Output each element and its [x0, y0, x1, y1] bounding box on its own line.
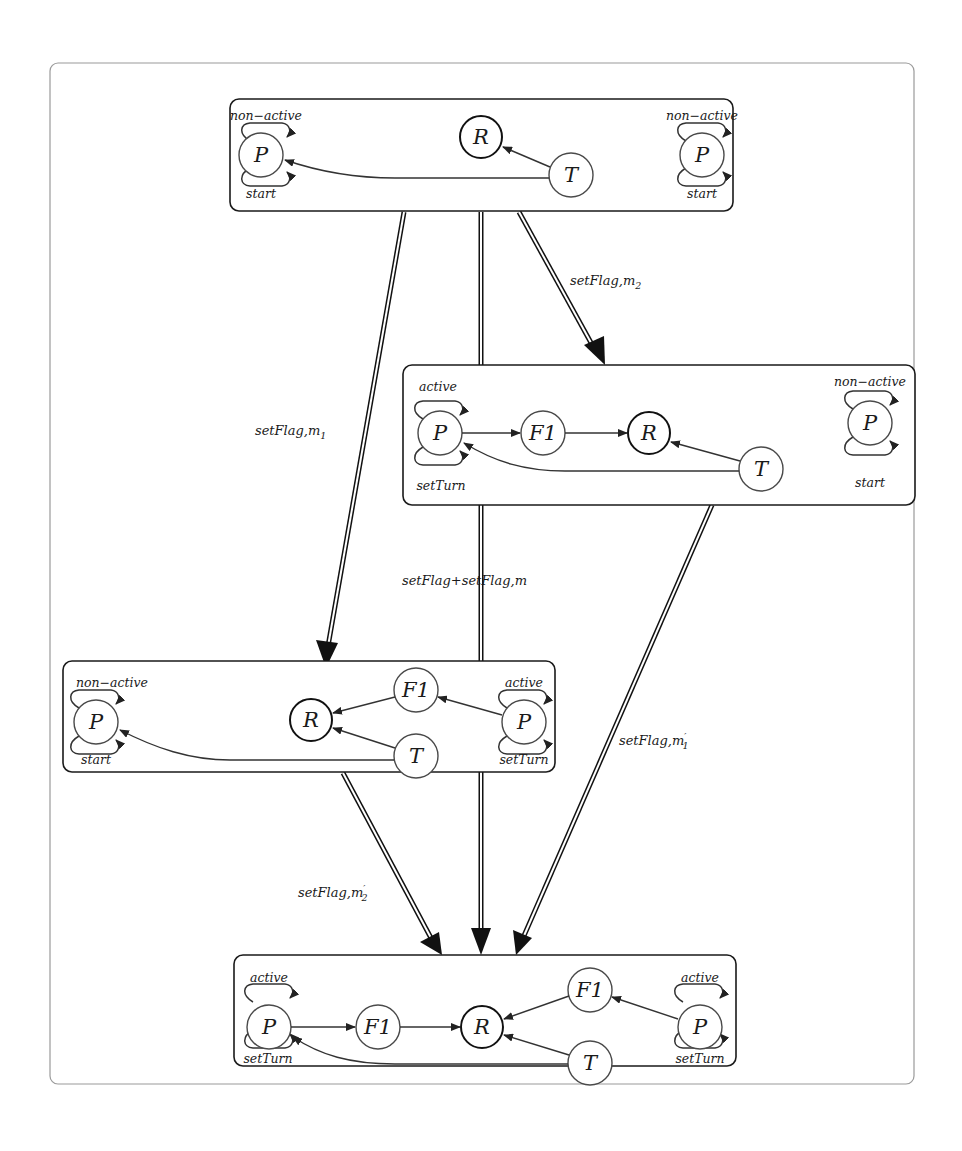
svg-text:F1: F1: [401, 678, 430, 702]
transition-label-m2: setFlag,m2: [570, 273, 641, 291]
loop-label-setTurn: setTurn: [499, 752, 548, 767]
loop-label-active: active: [681, 970, 719, 985]
transition-s0-s1: [519, 212, 605, 365]
loop-label-start: start: [855, 475, 886, 490]
svg-text:F1: F1: [575, 978, 604, 1002]
state-box-s2: non−active P start R F1 T active P setTu…: [63, 661, 555, 778]
svg-text:P: P: [694, 143, 710, 167]
svg-text:F1: F1: [528, 421, 557, 445]
loop-label-start: start: [246, 186, 277, 201]
svg-text:P: P: [516, 710, 532, 734]
svg-text:R: R: [472, 125, 489, 149]
state-box-s0: non−active P start R T non−active P star…: [230, 99, 738, 211]
loop-label-non-active: non−active: [76, 675, 148, 690]
svg-text:T: T: [583, 1051, 599, 1075]
svg-text:P: P: [88, 710, 104, 734]
loop-label-start: start: [687, 186, 718, 201]
loop-label-start: start: [81, 752, 112, 767]
svg-text:P: P: [253, 143, 269, 167]
transition-s0-s2: [316, 212, 404, 668]
transition-s2-s3: [343, 773, 442, 955]
svg-text:P: P: [692, 1015, 708, 1039]
transition-label-m1-prime: setFlag,m′1: [619, 731, 689, 751]
state-diagram: setFlag,m2 setFlag,m1 setFlag+setFlag,m …: [0, 0, 962, 1151]
loop-label-setTurn: setTurn: [416, 478, 465, 493]
loop-label-active: active: [505, 675, 543, 690]
svg-text:R: R: [473, 1015, 490, 1039]
loop-label-active: active: [250, 970, 288, 985]
loop-label-non-active: non−active: [230, 108, 302, 123]
loop-label-active: active: [419, 379, 457, 394]
loop-label-non-active: non−active: [666, 108, 738, 123]
svg-text:P: P: [862, 411, 878, 435]
loop-label-setTurn: setTurn: [243, 1051, 292, 1066]
svg-text:F1: F1: [363, 1015, 392, 1039]
transition-label-m2-prime: setFlag,m′2: [298, 883, 368, 903]
svg-text:R: R: [640, 421, 657, 445]
svg-text:P: P: [261, 1015, 277, 1039]
svg-text:T: T: [564, 163, 580, 187]
svg-text:P: P: [432, 421, 448, 445]
state-box-s3: active P setTurn F1 R F1 T active P setT…: [234, 955, 736, 1085]
transition-label-m1: setFlag,m1: [255, 423, 326, 441]
svg-text:T: T: [754, 457, 770, 481]
loop-label-setTurn: setTurn: [675, 1051, 724, 1066]
svg-text:R: R: [302, 708, 319, 732]
state-box-s1: active P setTurn F1 R T non−active P sta…: [403, 365, 915, 505]
svg-text:T: T: [409, 744, 425, 768]
transition-label-mm: setFlag+setFlag,m: [402, 573, 527, 588]
arrowhead-icon: [471, 928, 491, 955]
loop-label-non-active: non−active: [834, 374, 906, 389]
